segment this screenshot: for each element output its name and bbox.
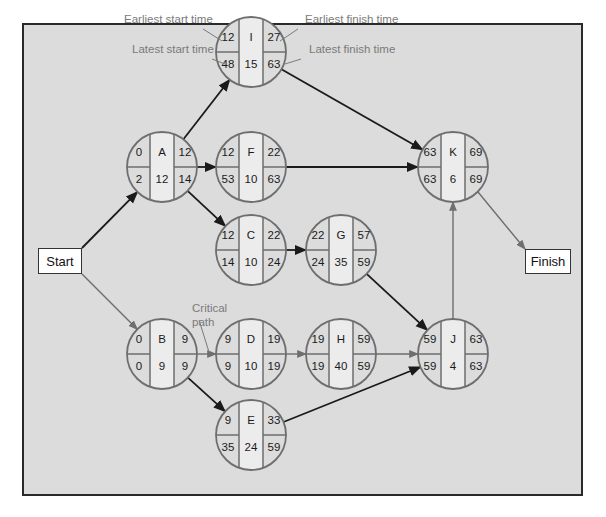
duration: 12: [156, 173, 169, 185]
latest-finish: 59: [358, 360, 371, 372]
duration: 40: [335, 360, 348, 372]
label-critical-path: Critical path: [192, 301, 242, 329]
earliest-finish: 57: [358, 229, 371, 241]
activity-label: H: [337, 333, 345, 345]
duration: 4: [450, 360, 457, 372]
activity-label: E: [247, 414, 255, 426]
activity-node-j: 59J6359463: [418, 319, 488, 389]
label-latest-finish-time: Latest finish time: [309, 43, 395, 55]
duration: 10: [245, 256, 258, 268]
earliest-start: 0: [136, 333, 142, 345]
latest-start: 63: [424, 173, 437, 185]
label-latest-start-time: Latest start time: [132, 43, 214, 55]
earliest-start: 12: [222, 146, 235, 158]
latest-finish: 69: [470, 173, 483, 185]
earliest-finish: 12: [179, 146, 192, 158]
earliest-finish: 33: [268, 414, 281, 426]
activity-label: I: [249, 31, 252, 43]
latest-start: 14: [222, 256, 235, 268]
earliest-finish: 63: [470, 333, 483, 345]
activity-label: G: [337, 229, 346, 241]
latest-start: 59: [424, 360, 437, 372]
activity-label: A: [158, 146, 166, 158]
earliest-finish: 22: [268, 146, 281, 158]
latest-finish: 24: [268, 256, 281, 268]
latest-start: 9: [225, 360, 231, 372]
activity-label: B: [158, 333, 166, 345]
arrow-a-to-i: [183, 80, 229, 140]
earliest-finish: 9: [182, 333, 188, 345]
activity-node-e: 9E33352459: [216, 400, 286, 470]
latest-start: 0: [136, 360, 142, 372]
activity-node-c: 12C22141024: [216, 215, 286, 285]
earliest-start: 19: [312, 333, 325, 345]
earliest-finish: 27: [268, 31, 281, 43]
activity-node-h: 19H59194059: [306, 319, 376, 389]
earliest-finish: 19: [268, 333, 281, 345]
earliest-finish: 59: [358, 333, 371, 345]
arrow-b-to-e: [188, 378, 225, 412]
arrow-start-to-a: [82, 192, 137, 248]
duration: 35: [335, 256, 348, 268]
activity-node-i: 12I27481563: [216, 17, 286, 87]
earliest-start: 63: [424, 146, 437, 158]
arrow-g-to-j: [367, 274, 428, 330]
activity-label: F: [247, 146, 254, 158]
activity-node-f: 12F22531063: [216, 132, 286, 202]
duration: 15: [245, 58, 258, 70]
arrow-i-to-k: [281, 69, 422, 149]
earliest-finish: 69: [470, 146, 483, 158]
start-node: Start: [38, 248, 82, 274]
activity-node-k: 63K6963669: [418, 132, 488, 202]
arrow-start-to-b: [82, 274, 137, 329]
label-earliest-start-time: Earliest start time: [124, 13, 213, 25]
activity-label: C: [247, 229, 255, 241]
activity-node-a: 0A1221214: [127, 132, 197, 202]
earliest-start: 59: [424, 333, 437, 345]
label-earliest-finish-time: Earliest finish time: [305, 13, 398, 25]
finish-node: Finish: [525, 249, 571, 274]
earliest-start: 12: [222, 229, 235, 241]
activity-label: J: [450, 333, 456, 345]
duration: 10: [245, 360, 258, 372]
activity-label: D: [247, 333, 255, 345]
latest-finish: 14: [179, 173, 192, 185]
latest-start: 53: [222, 173, 235, 185]
activity-node-b: 0B9099: [127, 319, 197, 389]
earliest-start: 9: [225, 414, 231, 426]
latest-finish: 63: [268, 173, 281, 185]
network-diagram: 12I274815630A122121412F2253106363K696366…: [0, 0, 606, 517]
duration: 10: [245, 173, 258, 185]
earliest-start: 22: [312, 229, 325, 241]
activity-label: K: [449, 146, 457, 158]
arrow-a-to-c: [188, 191, 226, 226]
latest-finish: 59: [358, 256, 371, 268]
latest-finish: 63: [268, 58, 281, 70]
latest-finish: 59: [268, 441, 281, 453]
earliest-start: 12: [222, 31, 235, 43]
latest-start: 19: [312, 360, 325, 372]
latest-start: 24: [312, 256, 325, 268]
earliest-start: 0: [136, 146, 142, 158]
duration: 6: [450, 173, 456, 185]
earliest-finish: 22: [268, 229, 281, 241]
latest-finish: 63: [470, 360, 483, 372]
latest-finish: 9: [182, 360, 188, 372]
activity-node-d: 9D1991019: [216, 319, 286, 389]
duration: 9: [159, 360, 165, 372]
arrow-k-to-finish: [478, 192, 525, 249]
activity-node-g: 22G57243559: [306, 215, 376, 285]
latest-start: 48: [222, 58, 235, 70]
latest-finish: 19: [268, 360, 281, 372]
latest-start: 35: [222, 441, 235, 453]
latest-start: 2: [136, 173, 142, 185]
earliest-start: 9: [225, 333, 231, 345]
duration: 24: [245, 441, 258, 453]
